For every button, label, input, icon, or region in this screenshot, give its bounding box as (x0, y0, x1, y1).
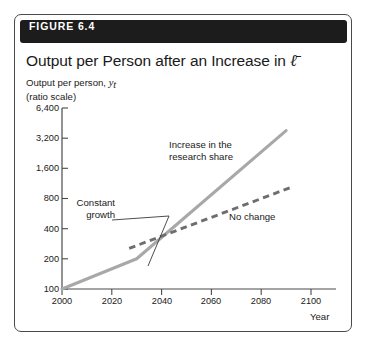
ytick-label-6400: 6,400 (19, 103, 59, 113)
xtick-label-2100: 2100 (293, 296, 329, 306)
annotation-constant-line2: growth (86, 209, 115, 220)
annotation-increase-line1: Increase in the (169, 139, 232, 150)
ytick-label-100: 100 (19, 284, 59, 294)
ytick-label-800: 800 (19, 193, 59, 203)
annotation-constant-line1: Constant (77, 197, 115, 208)
xtick-label-2000: 2000 (44, 296, 80, 306)
ytick-label-400: 400 (19, 224, 59, 234)
ytick-label-3200: 3,200 (19, 133, 59, 143)
chart-plot-area (15, 15, 353, 333)
annotation-increase-line2: research share (169, 151, 233, 162)
x-axis-name: Year (310, 311, 329, 322)
ytick-label-200: 200 (19, 254, 59, 264)
annotation-no-change: No change (229, 211, 275, 223)
x-axis-ticks (62, 289, 311, 295)
xtick-label-2060: 2060 (193, 296, 229, 306)
xtick-label-2020: 2020 (94, 296, 130, 306)
annotation-increase-research-share: Increase in the research share (169, 139, 233, 162)
xtick-label-2040: 2040 (144, 296, 180, 306)
ytick-label-1600: 1,600 (19, 163, 59, 173)
annotation-constant-growth: Constant growth (71, 197, 115, 220)
constant-growth-leader-lines (112, 216, 169, 266)
xtick-label-2080: 2080 (243, 296, 279, 306)
y-axis-ticks (62, 108, 68, 289)
figure-container: FIGURE 6.4 Output per Person after an In… (14, 14, 352, 332)
